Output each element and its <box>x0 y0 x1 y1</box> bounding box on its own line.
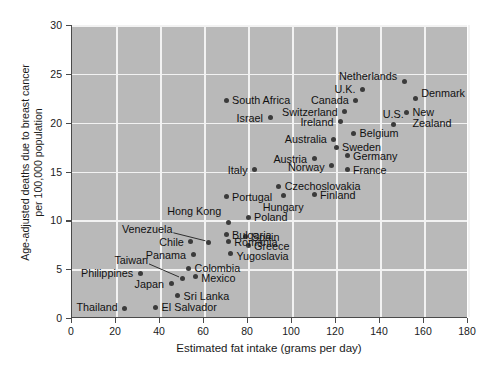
data-point <box>175 293 180 298</box>
x-axis-title: Estimated fat intake (grams per day) <box>71 342 467 354</box>
point-label: Israel <box>237 112 263 123</box>
point-label: Switzerland <box>282 106 338 117</box>
point-label: Chile <box>159 236 184 247</box>
gridline-y-15 <box>72 172 467 174</box>
tick-x-100 <box>291 318 292 323</box>
tick-x-80 <box>247 318 248 323</box>
tick-label-x-60: 60 <box>183 325 223 337</box>
data-point <box>268 115 273 120</box>
gridline-y-30 <box>72 25 467 27</box>
tick-x-60 <box>203 318 204 323</box>
tick-label-x-80: 80 <box>227 325 267 337</box>
data-point <box>404 110 409 115</box>
data-point <box>186 266 191 271</box>
tick-label-y-30: 30 <box>36 19 62 31</box>
scatter-plot-figure: ThailandEl SalvadorSri LankaJapanTaiwanP… <box>0 0 495 372</box>
point-label: Canada <box>311 95 349 106</box>
point-label: Hungary <box>263 201 304 212</box>
data-point <box>312 156 317 161</box>
data-point <box>402 79 407 84</box>
point-label: Venezuela <box>122 223 172 234</box>
tick-y-10 <box>66 220 71 221</box>
tick-label-x-40: 40 <box>139 325 179 337</box>
tick-label-x-180: 180 <box>447 325 487 337</box>
tick-label-x-20: 20 <box>95 325 135 337</box>
point-label: U.K. <box>334 84 355 95</box>
tick-label-x-0: 0 <box>51 325 91 337</box>
tick-y-0 <box>66 318 71 319</box>
point-label: Sri Lanka <box>184 290 230 301</box>
data-point <box>276 184 281 189</box>
data-point <box>206 240 211 245</box>
point-label: Austria <box>273 153 307 164</box>
point-label: Japan <box>135 278 164 289</box>
tick-x-20 <box>115 318 116 323</box>
data-point <box>180 276 185 281</box>
point-label: Taiwan <box>114 254 148 265</box>
point-label: Colombia <box>195 263 241 274</box>
data-point <box>360 87 365 92</box>
data-point <box>329 163 334 168</box>
point-label: Thailand <box>76 302 117 313</box>
data-point <box>312 192 317 197</box>
tick-x-160 <box>423 318 424 323</box>
tick-label-x-140: 140 <box>359 325 399 337</box>
y-axis-title-line2: per 100,000 population <box>31 48 44 278</box>
tick-y-20 <box>66 123 71 124</box>
point-label: Bulgaria <box>232 229 272 240</box>
data-point <box>226 239 231 244</box>
point-label: South Africa <box>232 95 290 106</box>
tick-label-x-160: 160 <box>403 325 443 337</box>
tick-y-25 <box>66 74 71 75</box>
point-label: Zealand <box>412 117 451 128</box>
tick-x-40 <box>159 318 160 323</box>
tick-y-30 <box>66 25 71 26</box>
data-point <box>138 271 143 276</box>
data-point <box>246 215 251 220</box>
data-point <box>169 281 174 286</box>
plot-area: ThailandEl SalvadorSri LankaJapanTaiwanP… <box>71 25 467 318</box>
data-point <box>342 109 347 114</box>
data-point <box>193 274 198 279</box>
data-point <box>345 167 350 172</box>
data-point <box>153 305 158 310</box>
tick-x-140 <box>379 318 380 323</box>
point-label: Ireland <box>300 116 333 127</box>
point-label: U.S. <box>383 108 404 119</box>
tick-label-x-120: 120 <box>315 325 355 337</box>
gridline-x-180 <box>468 25 470 317</box>
point-label: Panama <box>146 249 186 260</box>
tick-x-180 <box>467 318 468 323</box>
data-point <box>391 122 396 127</box>
data-point <box>228 251 233 256</box>
data-point <box>351 131 356 136</box>
point-label: Australia <box>285 134 327 145</box>
gridline-y-20 <box>72 123 467 125</box>
point-label: Sweden <box>342 142 381 153</box>
data-point <box>334 145 339 150</box>
point-label: Philippines <box>81 268 133 279</box>
point-label: Mexico <box>201 272 235 283</box>
data-point <box>224 98 229 103</box>
data-point <box>191 252 196 257</box>
tick-y-15 <box>66 172 71 173</box>
point-label: France <box>353 164 387 175</box>
data-point <box>122 306 127 311</box>
y-axis-title: Age-adjusted deaths due to breast cancer… <box>19 48 44 278</box>
data-point <box>226 220 231 225</box>
data-point <box>413 96 418 101</box>
data-point <box>224 194 229 199</box>
point-label: Poland <box>254 212 288 223</box>
data-point <box>353 98 358 103</box>
data-point <box>281 193 286 198</box>
point-label: El Salvador <box>162 302 217 313</box>
point-label: Italy <box>228 164 248 175</box>
point-label: Denmark <box>421 88 465 99</box>
point-label: Hong Kong <box>167 206 221 217</box>
data-point <box>188 239 193 244</box>
tick-label-x-100: 100 <box>271 325 311 337</box>
gridline-y-25 <box>72 74 467 76</box>
tick-x-120 <box>335 318 336 323</box>
point-label: Czechoslovakia <box>285 181 361 192</box>
data-point <box>224 232 229 237</box>
